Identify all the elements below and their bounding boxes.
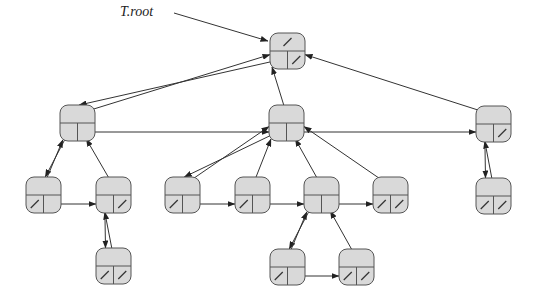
- tree-node-G: [235, 177, 270, 213]
- tree-node-A: [60, 105, 95, 141]
- pointer-edges: [44, 55, 494, 276]
- tree-node-root: [270, 33, 305, 69]
- tree-node-B: [269, 105, 304, 141]
- tree-node-M: [339, 249, 374, 285]
- tree-node-L: [270, 249, 305, 285]
- parent-pointer-C: [305, 55, 494, 115]
- t-root-pointer: [174, 13, 268, 41]
- tree-node-E: [96, 177, 131, 213]
- tree-node-H: [304, 177, 339, 213]
- tree-diagram: [0, 0, 538, 304]
- tree-node-J: [476, 178, 511, 214]
- tree-node-I: [373, 177, 408, 213]
- tree-nodes: [26, 33, 511, 285]
- tree-node-D: [26, 177, 61, 213]
- tree-node-F: [165, 177, 200, 213]
- left-child-pointer-B: [184, 132, 278, 177]
- tree-node-K: [96, 248, 131, 284]
- tree-node-C: [476, 106, 511, 142]
- parent-pointer-A: [78, 55, 271, 114]
